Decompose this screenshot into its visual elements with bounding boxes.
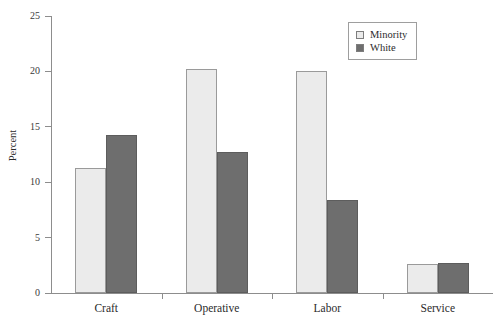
x-tick-mark — [272, 293, 273, 299]
y-tick-mark — [45, 293, 51, 294]
y-axis-line — [51, 16, 52, 294]
bar-craft-white — [106, 135, 137, 293]
x-tick-mark — [162, 293, 163, 299]
bar-service-white — [438, 263, 469, 293]
y-tick-label: 20 — [0, 66, 40, 76]
bar-craft-minority — [75, 168, 106, 293]
y-tick-label: 25 — [0, 11, 40, 21]
bar-chart: Percent 0510152025 CraftOperativeLaborSe… — [0, 0, 498, 325]
y-tick-mark — [45, 71, 51, 72]
bar-labor-minority — [296, 71, 327, 293]
legend-label-minority: Minority — [370, 29, 407, 41]
chart-legend: Minority White — [348, 22, 417, 60]
x-tick-mark — [383, 293, 384, 299]
x-tick-label: Labor — [277, 302, 377, 315]
bar-operative-white — [217, 152, 248, 293]
y-tick-mark — [45, 16, 51, 17]
legend-swatch-white-icon — [356, 44, 364, 52]
legend-item-minority: Minority — [356, 28, 407, 41]
y-tick-label: 15 — [0, 122, 40, 132]
y-tick-label: 10 — [0, 177, 40, 187]
bar-labor-white — [327, 200, 358, 293]
bar-service-minority — [407, 264, 438, 293]
bar-operative-minority — [186, 69, 217, 293]
legend-swatch-minority-icon — [356, 31, 364, 39]
x-tick-label: Service — [388, 302, 488, 315]
legend-item-white: White — [356, 41, 407, 54]
y-tick-mark — [45, 237, 51, 238]
legend-label-white: White — [370, 42, 396, 54]
x-tick-label: Operative — [167, 302, 267, 315]
y-tick-label: 0 — [0, 288, 40, 298]
y-tick-mark — [45, 126, 51, 127]
y-tick-label: 5 — [0, 233, 40, 243]
x-tick-label: Craft — [56, 302, 156, 315]
y-tick-mark — [45, 182, 51, 183]
